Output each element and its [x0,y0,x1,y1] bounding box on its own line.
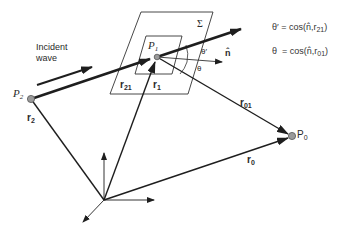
label-p0: P0 [297,130,308,141]
incident-wave-label: Incident wave [36,43,68,63]
normal-vector-n [157,57,222,62]
equation-theta-prime: θ′ = cos(n̂,r21) [272,23,327,33]
point-p0 [288,132,295,139]
label-r21: r21 [120,80,132,91]
point-p2 [27,95,34,102]
vector-r01 [157,57,288,134]
label-r1: r1 [153,80,161,91]
diagram-canvas [0,0,345,233]
point-p1 [154,54,160,60]
label-r0: r0 [247,155,255,166]
label-r2: r2 [27,113,35,124]
label-p2: P2 [13,88,23,101]
vector-r2 [31,99,104,200]
incident-label-line1: Incident [36,43,68,52]
label-r01: r01 [240,98,252,109]
label-n-hat: n̂ [225,49,231,58]
incident-label-line2: wave [36,54,68,63]
label-theta-prime: θ′ [201,48,207,56]
ray-p2-p1 [31,59,150,99]
label-theta: θ [197,65,201,73]
equation-theta: θ = cos(n̂,r01) [272,47,328,57]
vector-r0 [104,138,288,200]
axis-y [83,200,104,222]
label-p1: P1 [148,40,158,53]
label-sigma: Σ [197,19,203,29]
